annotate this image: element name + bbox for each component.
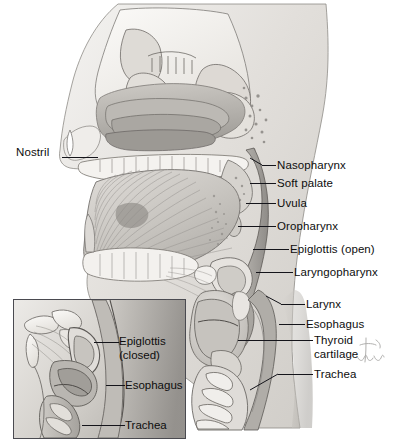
label-uvula: Uvula bbox=[277, 197, 307, 211]
inset-panel-epiglottis-closed: Epiglottis (closed) Esophagus Trachea bbox=[13, 299, 186, 439]
label-nostril: Nostril bbox=[16, 146, 49, 160]
inset-label-esophagus: Esophagus bbox=[125, 379, 183, 393]
label-soft-palate: Soft palate bbox=[277, 177, 333, 191]
label-trachea: Trachea bbox=[314, 368, 356, 382]
label-larynx: Larynx bbox=[306, 298, 341, 312]
label-oropharynx: Oropharynx bbox=[277, 220, 338, 234]
label-laryngopharynx: Laryngopharynx bbox=[294, 266, 378, 280]
inset-label-epiglottis-closed: Epiglottis (closed) bbox=[119, 335, 166, 362]
artist-signature bbox=[352, 334, 392, 368]
inset-label-trachea: Trachea bbox=[125, 419, 167, 433]
anatomy-figure: Nostril Nasopharynx Soft palate Uvula Or… bbox=[0, 0, 404, 439]
label-nasopharynx: Nasopharynx bbox=[277, 159, 346, 173]
label-epiglottis-open: Epiglottis (open) bbox=[290, 243, 375, 257]
inset-swallowing-illustration bbox=[14, 300, 185, 438]
label-esophagus: Esophagus bbox=[306, 318, 364, 332]
